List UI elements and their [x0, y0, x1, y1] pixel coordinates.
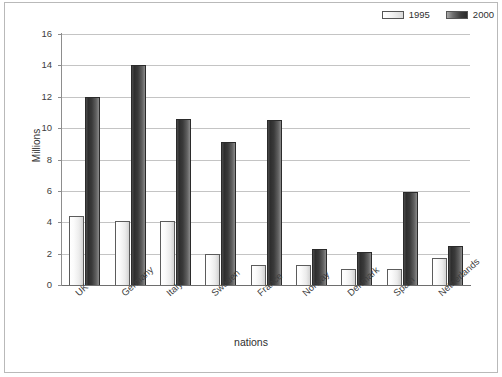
bar-uk-1995	[69, 216, 84, 285]
plot-wrapper: Millions nations 0246810121416UKGermanyI…	[0, 0, 502, 377]
bar-uk-2000	[85, 97, 100, 285]
gridline	[62, 65, 470, 66]
bar-italy-1995	[160, 221, 175, 285]
y-axis-tick	[58, 222, 62, 223]
y-axis-tick-label: 16	[30, 28, 52, 39]
plot-area	[62, 34, 470, 285]
y-axis-tick-label: 12	[30, 91, 52, 102]
y-axis-tick	[58, 34, 62, 35]
y-axis-tick-label: 14	[30, 59, 52, 70]
bar-sweden-2000	[221, 142, 236, 285]
y-axis-tick-label: 4	[30, 216, 52, 227]
bar-france-2000	[267, 120, 282, 285]
bar-spain-2000	[403, 192, 418, 285]
y-axis-tick	[58, 254, 62, 255]
gridline	[62, 97, 470, 98]
bar-germany-2000	[131, 65, 146, 285]
bar-germany-1995	[115, 221, 130, 285]
y-axis-tick	[58, 97, 62, 98]
y-axis-tick	[58, 128, 62, 129]
y-axis-tick-label: 6	[30, 185, 52, 196]
gridline	[62, 34, 470, 35]
x-axis-title: nations	[0, 336, 502, 348]
y-axis-tick-label: 2	[30, 248, 52, 259]
y-axis-tick-label: 8	[30, 154, 52, 165]
y-axis-tick	[58, 191, 62, 192]
y-axis-tick-label: 0	[30, 279, 52, 290]
y-axis-tick	[58, 160, 62, 161]
y-axis-tick-label: 10	[30, 122, 52, 133]
y-axis-tick	[58, 285, 62, 286]
y-axis-tick	[58, 65, 62, 66]
bar-italy-2000	[176, 119, 191, 285]
